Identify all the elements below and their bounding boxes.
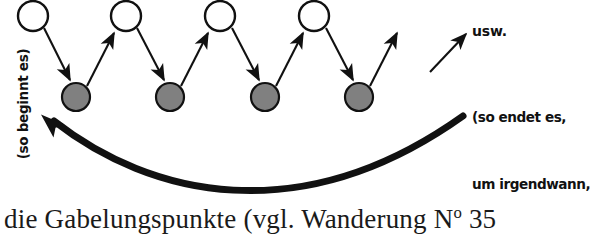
filled-node-1 — [62, 83, 90, 111]
filled-nodes — [62, 83, 373, 111]
open-nodes — [18, 1, 329, 31]
end-note-line: um irgendwann, — [472, 173, 602, 195]
arrow-down-2 — [137, 28, 164, 80]
arrow-up-usw — [430, 34, 466, 72]
usw-label: usw. — [472, 23, 507, 39]
zigzag-arrows — [44, 28, 466, 86]
arrow-down-4 — [326, 28, 353, 80]
arrow-down-3 — [232, 28, 259, 80]
figure-canvas: (so beginnt es) usw. (so endet es, um ir… — [0, 0, 602, 237]
arrow-up-2 — [181, 33, 208, 86]
open-node-4 — [299, 1, 329, 31]
filled-node-3 — [251, 83, 279, 111]
start-label: (so beginnt es) — [15, 29, 31, 179]
return-curve-arrow — [41, 115, 463, 191]
open-node-2 — [111, 1, 141, 31]
open-node-1 — [18, 1, 48, 31]
caption-text-after: 35 — [462, 204, 496, 234]
end-note-line: (so endet es, — [472, 106, 602, 128]
arrow-up-3 — [276, 33, 303, 86]
caption-ordinal-superscript: o — [453, 203, 462, 222]
caption-text-before: die Gabelungspunkte (vgl. Wanderung N — [4, 204, 453, 234]
arrow-up-4 — [370, 33, 397, 86]
filled-node-4 — [345, 83, 373, 111]
open-node-3 — [205, 1, 235, 31]
filled-node-2 — [156, 83, 184, 111]
arrow-up-1 — [87, 33, 114, 86]
arrow-down-1 — [44, 28, 70, 80]
figure-caption: die Gabelungspunkte (vgl. Wanderung No 3… — [4, 203, 496, 235]
